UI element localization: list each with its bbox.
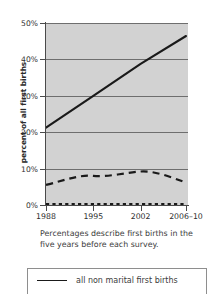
x-tick-mark-2002 (141, 206, 142, 211)
y-axis-spine (45, 22, 46, 206)
y-tick-mark-50 (40, 23, 46, 24)
y-tick-label-10: 10% (0, 165, 38, 174)
y-tick-label-50: 50% (0, 19, 38, 28)
y-tick-mark-40 (40, 59, 46, 60)
x-tick-mark-1988 (46, 206, 47, 211)
x-tick-label-2006-10: 2006–10 (158, 212, 214, 221)
y-tick-mark-10 (40, 169, 46, 170)
x-tick-mark-2006-10 (186, 206, 187, 211)
y-tick-label-30: 30% (0, 92, 38, 101)
y-tick-label-20: 20% (0, 128, 38, 137)
legend-line-swatch-solid (37, 280, 67, 281)
chart-caption: Percentages describe first births in the… (40, 228, 208, 251)
series-line-solid (46, 36, 186, 128)
series-lines (46, 23, 188, 205)
y-tick-label-40: 40% (0, 55, 38, 64)
x-axis-spine (45, 205, 189, 206)
legend-entry-all-non-marital-first-births: all non marital first births (37, 276, 178, 285)
series-line-dashed (46, 171, 186, 184)
y-tick-mark-20 (40, 132, 46, 133)
y-tick-mark-30 (40, 96, 46, 97)
legend-entry-label: all non marital first births (76, 276, 178, 285)
y-tick-label-0: 0% (0, 201, 38, 210)
chart-legend: all non marital first births (27, 268, 207, 294)
x-tick-mark-1995 (93, 206, 94, 211)
